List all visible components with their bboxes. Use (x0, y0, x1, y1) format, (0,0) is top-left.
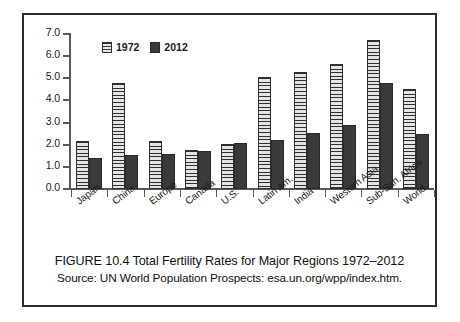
y-tick: 4.0 (63, 99, 71, 101)
bar-group (71, 34, 107, 189)
y-tick-mark (63, 144, 71, 146)
bar-group (289, 34, 325, 189)
x-tick-mark (434, 190, 435, 197)
y-tick-mark (63, 33, 71, 35)
bar-2012-sub-sah-africa (380, 83, 393, 189)
y-tick: 0.0 (63, 188, 71, 190)
y-tick: 5.0 (63, 77, 71, 79)
y-tick-label: 5.0 (46, 70, 60, 82)
x-tick-mark (253, 190, 254, 197)
y-tick-mark (63, 188, 71, 190)
y-tick: 3.0 (63, 122, 71, 124)
x-tick-mark (325, 190, 326, 197)
legend-swatch-1972-icon (102, 42, 112, 53)
y-tick-mark (63, 77, 71, 79)
x-tick-mark (71, 190, 72, 197)
bar-1972-china (112, 83, 125, 189)
y-tick-label: 2.0 (46, 137, 60, 149)
x-tick-mark (144, 190, 145, 197)
bar-1972-latin-am (258, 77, 271, 189)
y-tick-mark (63, 55, 71, 57)
bar-series-layer (71, 34, 434, 189)
bar-1972-japan (76, 141, 89, 189)
y-tick-label: 4.0 (46, 92, 60, 104)
y-tick-mark (63, 99, 71, 101)
x-tick-mark (289, 190, 290, 197)
y-tick-label: 6.0 (46, 48, 60, 60)
legend-item-2012: 2012 (150, 41, 187, 53)
y-tick: 2.0 (63, 144, 71, 146)
bar-group (216, 34, 252, 189)
y-tick: 6.0 (63, 55, 71, 57)
chart-plot-area: 0.01.02.03.04.05.06.07.0 JapanChinaEurop… (24, 15, 439, 205)
caption-source: Source: UN World Population Prospects: e… (24, 271, 435, 287)
y-tick: 1.0 (63, 166, 71, 168)
bar-1972-india (294, 72, 307, 189)
x-tick-mark (107, 190, 108, 197)
bar-1972-u-s (221, 144, 234, 189)
bar-group (107, 34, 143, 189)
bar-1972-europe (149, 141, 162, 189)
bar-group (144, 34, 180, 189)
figure-caption: FIGURE 10.4 Total Fertility Rates for Ma… (24, 253, 435, 287)
bar-2012-u-s (234, 143, 247, 190)
bar-group (325, 34, 361, 189)
bar-group (180, 34, 216, 189)
bar-group (361, 34, 397, 189)
bar-2012-india (307, 133, 320, 189)
x-tick-mark (180, 190, 181, 197)
y-tick-mark (63, 166, 71, 168)
bar-1972-western-asia (330, 64, 343, 189)
legend-swatch-2012-icon (150, 42, 160, 53)
y-tick: 7.0 (63, 33, 71, 35)
y-tick-mark (63, 122, 71, 124)
caption-title: FIGURE 10.4 Total Fertility Rates for Ma… (24, 253, 435, 270)
bar-group (253, 34, 289, 189)
legend-label-2012: 2012 (164, 41, 187, 53)
x-tick-mark (216, 190, 217, 197)
bar-1972-canada (185, 150, 198, 189)
y-tick-label: 1.0 (46, 159, 60, 171)
chart-legend: 1972 2012 (102, 41, 188, 53)
x-tick-mark (398, 190, 399, 197)
figure-frame: 0.01.02.03.04.05.06.07.0 JapanChinaEurop… (22, 13, 437, 307)
y-tick-label: 0.0 (46, 181, 60, 193)
legend-label-1972: 1972 (116, 41, 139, 53)
y-tick-label: 3.0 (46, 115, 60, 127)
x-tick-mark (361, 190, 362, 197)
y-tick-label: 7.0 (46, 26, 60, 38)
legend-item-1972: 1972 (102, 41, 139, 53)
